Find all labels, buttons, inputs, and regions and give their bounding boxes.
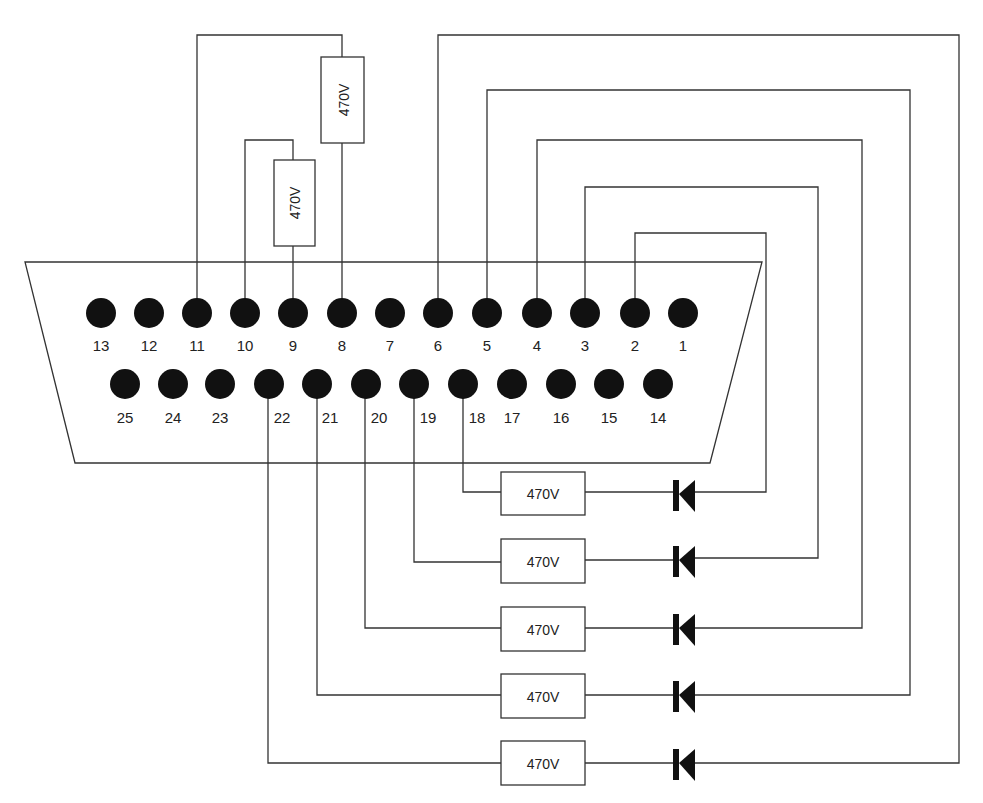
pin-15 <box>594 369 624 399</box>
pin-label: 1 <box>679 337 687 354</box>
pin-label: 25 <box>117 409 134 426</box>
pin-11 <box>182 298 212 328</box>
resistor-label: 470V <box>527 554 560 570</box>
pin-5 <box>472 298 502 328</box>
pin-6 <box>423 298 453 328</box>
resistor-label: 470V <box>527 756 560 772</box>
pin-14 <box>643 369 673 399</box>
resistor-feed-wires <box>268 383 501 763</box>
resistor-label: 470V <box>527 622 560 638</box>
pin-7 <box>375 298 405 328</box>
pin-label: 12 <box>141 337 158 354</box>
pin-label: 13 <box>93 337 110 354</box>
pin-9 <box>278 298 308 328</box>
diode-icon <box>673 546 695 578</box>
pin-label: 16 <box>553 409 570 426</box>
pin-23 <box>205 369 235 399</box>
pin-1 <box>668 298 698 328</box>
pin-label: 21 <box>322 409 339 426</box>
pin-25 <box>110 369 140 399</box>
loopback-wires <box>438 35 959 763</box>
pin-22 <box>254 369 284 399</box>
pin-18 <box>448 369 478 399</box>
top-pin-labels: 13 12 11 10 9 8 7 6 5 4 3 2 1 <box>93 337 688 354</box>
pin-label: 15 <box>601 409 618 426</box>
pin-label: 24 <box>165 409 182 426</box>
loopback-row-4: 470V <box>501 674 695 718</box>
pin-label: 3 <box>581 337 589 354</box>
pin-19 <box>399 369 429 399</box>
pin-label: 17 <box>504 409 521 426</box>
pin-17 <box>497 369 527 399</box>
resistor-label: 470V <box>527 689 560 705</box>
pin-label: 9 <box>289 337 297 354</box>
pin-20 <box>351 369 381 399</box>
diode-icon <box>673 749 695 781</box>
diode-icon <box>673 480 695 512</box>
pin-2 <box>620 298 650 328</box>
pin-24 <box>158 369 188 399</box>
pin-label: 22 <box>274 409 291 426</box>
pin-12 <box>134 298 164 328</box>
pin-label: 5 <box>483 337 491 354</box>
pin-label: 20 <box>371 409 388 426</box>
pin-21 <box>302 369 332 399</box>
pin-label: 14 <box>650 409 667 426</box>
pin-16 <box>546 369 576 399</box>
pin-8 <box>327 298 357 328</box>
bottom-pin-labels: 25 24 23 22 21 20 19 18 17 16 15 14 <box>117 409 667 426</box>
pin-label: 8 <box>338 337 346 354</box>
pin-10 <box>230 298 260 328</box>
loopback-row-5: 470V <box>501 741 695 785</box>
top-resistor-10-9: 470V <box>245 140 315 312</box>
pin-label: 18 <box>469 409 486 426</box>
bottom-pin-row <box>110 369 673 399</box>
loopback-row-1: 470V <box>501 472 695 515</box>
pin-label: 23 <box>212 409 229 426</box>
top-pin-row <box>86 298 698 328</box>
pin-label: 6 <box>434 337 442 354</box>
pin-label: 2 <box>631 337 639 354</box>
pin-label: 10 <box>237 337 254 354</box>
loopback-row-2: 470V <box>501 539 695 583</box>
db25-connector-shell <box>25 262 762 463</box>
resistor-label: 470V <box>527 486 560 502</box>
pin-3 <box>570 298 600 328</box>
resistor-label: 470V <box>287 186 303 219</box>
schematic-canvas: 470V 470V 470V <box>0 0 983 803</box>
pin-4 <box>522 298 552 328</box>
pin-label: 19 <box>420 409 437 426</box>
pin-label: 4 <box>533 337 541 354</box>
pin-13 <box>86 298 116 328</box>
pin-label: 7 <box>386 337 394 354</box>
diode-icon <box>673 681 695 713</box>
pin-label: 11 <box>189 337 205 354</box>
diode-icon <box>673 614 695 646</box>
resistor-label: 470V <box>336 83 352 116</box>
loopback-row-3: 470V <box>501 607 695 651</box>
db25-loopback-diagram: 470V 470V 470V <box>0 0 983 803</box>
